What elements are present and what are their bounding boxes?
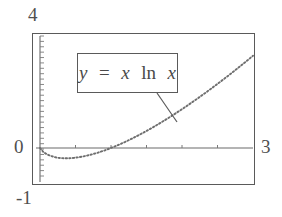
equation-log-function: ln	[141, 62, 156, 83]
equation-annotation-box: y = x ln x	[77, 53, 178, 93]
equation-rhs-variable: x	[121, 62, 129, 83]
figure-container: 4 0 -1 3 y = x ln x	[0, 0, 282, 217]
y-axis-zero-label: 0	[14, 137, 24, 156]
equation-log-argument: x	[167, 62, 175, 83]
equation-equals-sign: =	[99, 62, 110, 83]
y-axis-min-label: -1	[16, 188, 32, 207]
x-axis-max-label: 3	[261, 137, 271, 156]
equation-lhs: y	[79, 62, 87, 83]
equation-annotation-text: y = x ln x	[79, 62, 176, 84]
y-axis-max-label: 4	[28, 5, 38, 24]
